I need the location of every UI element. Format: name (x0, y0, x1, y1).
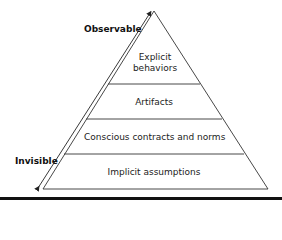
invisible-label: Invisible (15, 156, 58, 166)
level-implicit-assumptions: Implicit assumptions (84, 167, 224, 178)
level-artifacts: Artifacts (104, 97, 204, 108)
level-conscious-contracts: Conscious contracts and norms (84, 132, 224, 143)
observable-label: Observable (84, 24, 142, 34)
level-label-line1: Explicit (124, 52, 186, 63)
level-label-line2: behaviors (124, 63, 186, 74)
bottom-rule (0, 197, 282, 200)
level-explicit-behaviors: Explicit behaviors (124, 52, 186, 74)
